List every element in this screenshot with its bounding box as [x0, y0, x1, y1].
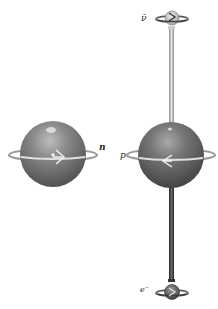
antineutrino-label: ν̄ [141, 14, 146, 23]
proton-label: p [120, 151, 126, 160]
electron-label: e⁻ [140, 286, 149, 294]
beta-decay-diagram [0, 0, 218, 309]
antineutrino-sphere [156, 11, 188, 25]
neutron-label: n [99, 143, 106, 152]
proton-sphere [127, 122, 215, 188]
antineutrino-track [168, 26, 175, 124]
neutron-sphere [9, 121, 97, 187]
electron-sphere [156, 285, 188, 300]
electron-track [168, 186, 175, 282]
